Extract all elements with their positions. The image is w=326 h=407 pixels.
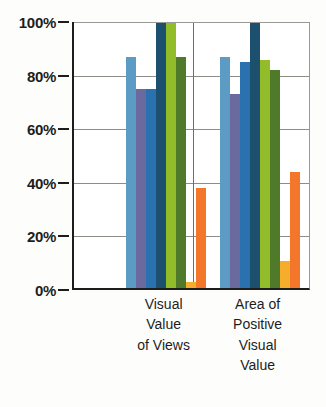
bar <box>146 89 156 290</box>
x-axis-category-label-line: Positive <box>203 314 313 334</box>
y-axis-tick-label: 100% <box>19 14 56 31</box>
y-axis-tick-mark <box>58 128 69 130</box>
x-axis-category-label: Area ofPositiveVisualValue <box>203 294 313 375</box>
bar <box>280 261 290 290</box>
x-axis-category-label-line: Visual <box>203 335 313 355</box>
bar <box>290 172 300 290</box>
bar <box>230 94 240 290</box>
bar <box>136 89 146 290</box>
y-axis-tick-label: 80% <box>27 67 56 84</box>
bar <box>260 60 270 290</box>
x-axis-category-label-line: Area of <box>203 294 313 314</box>
bar <box>196 188 206 290</box>
y-axis-tick-mark <box>58 182 69 184</box>
bar <box>166 22 176 290</box>
bar <box>240 62 250 290</box>
y-axis-tick-label: 20% <box>27 228 56 245</box>
bar <box>250 22 260 290</box>
y-axis-tick-mark <box>58 21 69 23</box>
bar <box>176 57 186 290</box>
bar-group <box>220 22 300 290</box>
y-axis-labels: 100%80%60%40%20%0% <box>0 0 56 290</box>
y-axis-tick-label: 40% <box>27 174 56 191</box>
y-axis-tick-label: 0% <box>35 282 56 299</box>
bar-group <box>126 22 206 290</box>
plot-area <box>72 22 310 290</box>
x-axis-category-label-line: Value <box>203 355 313 375</box>
bar-chart: 100%80%60%40%20%0% VisualValueof ViewsAr… <box>0 0 326 407</box>
bar <box>270 70 280 290</box>
bar <box>156 22 166 290</box>
y-axis-tick-mark <box>58 75 69 77</box>
y-axis-tick-mark <box>58 289 69 291</box>
bar <box>186 282 196 290</box>
y-axis-tick-mark <box>58 235 69 237</box>
y-axis-tick-label: 60% <box>27 121 56 138</box>
y-axis-ticks <box>58 0 70 290</box>
x-axis-labels: VisualValueof ViewsArea ofPositiveVisual… <box>72 294 310 404</box>
bar <box>126 57 136 290</box>
bar <box>220 57 230 290</box>
